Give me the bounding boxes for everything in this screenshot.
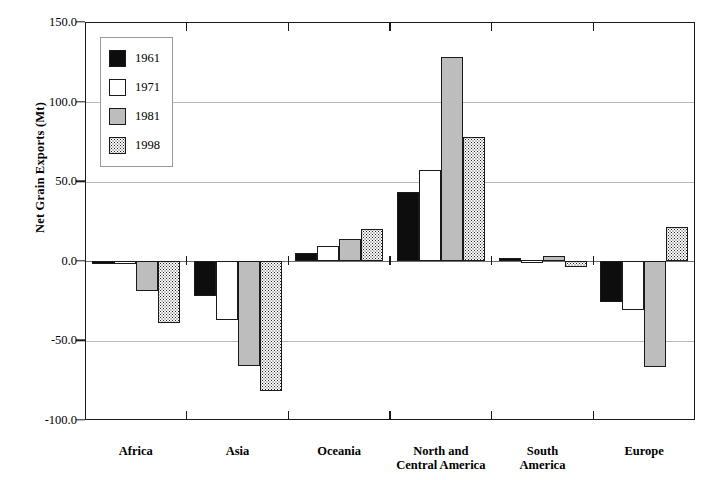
legend-label: 1998 (135, 138, 160, 153)
bar-1998-1 (158, 261, 180, 323)
x-axis-tick-mark (288, 22, 289, 31)
x-axis-tick-mark (593, 256, 594, 265)
y-axis-tick-mark (76, 260, 85, 261)
bar-1981-4 (441, 57, 463, 261)
x-axis-tick-mark (186, 22, 187, 31)
bar-1971-1 (114, 261, 136, 264)
x-axis-tick-mark (491, 411, 492, 420)
x-axis-tick-mark (389, 411, 390, 420)
bar-1981-2 (238, 261, 260, 366)
bar-1971-6 (622, 261, 644, 310)
y-axis-tick-label: 100.0 (31, 94, 77, 109)
x-axis-tick-mark (389, 22, 390, 31)
bar-1961-4 (397, 192, 419, 260)
chart-root: Net Grain Exports (Mt) 150.0100.050.00.0… (0, 0, 713, 480)
bar-1981-5 (543, 256, 565, 261)
x-axis-tick-mark (491, 256, 492, 265)
bar-1961-2 (194, 261, 216, 296)
gridline (86, 102, 694, 103)
y-axis-tick-label: 150.0 (31, 15, 77, 30)
legend-swatch-icon-1998 (109, 137, 126, 154)
bar-1971-2 (216, 261, 238, 320)
legend-entry-1961[interactable]: 1961 (109, 47, 160, 69)
legend-swatch-icon-1971 (109, 79, 126, 96)
x-axis-tick-mark (593, 22, 594, 31)
y-axis-tick-mark (76, 419, 85, 420)
bar-1981-1 (136, 261, 158, 291)
bar-1998-4 (463, 137, 485, 261)
legend-swatch-icon-1961 (109, 50, 126, 67)
x-axis-tick-mark (186, 256, 187, 265)
bar-1998-6 (666, 227, 688, 260)
legend-swatch-icon-1981 (109, 108, 126, 125)
bar-1971-3 (317, 246, 339, 260)
x-axis-tick-mark (288, 411, 289, 420)
legend-entry-1971[interactable]: 1971 (109, 76, 160, 98)
legend-entry-1998[interactable]: 1998 (109, 134, 160, 156)
gridline (86, 182, 694, 183)
gridline (86, 341, 694, 342)
y-axis-tick-mark (76, 101, 85, 102)
bar-1961-1 (92, 261, 114, 264)
bar-1961-6 (600, 261, 622, 302)
y-axis-tick-label: -100.0 (31, 413, 77, 428)
legend-label: 1981 (135, 109, 160, 124)
y-axis-tick-label: 50.0 (31, 174, 77, 189)
legend-label: 1961 (135, 51, 160, 66)
y-axis-tick-label: 0.0 (31, 253, 77, 268)
plot-area (85, 22, 695, 420)
y-axis-tick-mark (76, 340, 85, 341)
legend-label: 1971 (135, 80, 160, 95)
bar-1971-4 (419, 170, 441, 261)
x-axis-tick-mark (288, 256, 289, 265)
x-axis-tick-mark (593, 411, 594, 420)
x-axis-category-label: Europe (578, 444, 710, 458)
bar-1981-6 (644, 261, 666, 368)
bar-1998-2 (260, 261, 282, 392)
bar-1998-3 (361, 229, 383, 261)
bar-1961-3 (295, 253, 317, 261)
y-axis-tick-mark (76, 180, 85, 181)
bar-1998-5 (565, 261, 587, 267)
bar-1961-5 (499, 258, 521, 261)
legend-entry-1981[interactable]: 1981 (109, 105, 160, 127)
x-axis-tick-mark (491, 22, 492, 31)
x-axis-tick-mark (186, 411, 187, 420)
y-axis-tick-mark (76, 21, 85, 22)
bar-1981-3 (339, 239, 361, 260)
legend: 1961197119811998 (100, 37, 173, 167)
x-axis-tick-mark (389, 256, 390, 265)
bar-1971-5 (521, 260, 543, 263)
y-axis-tick-label: -50.0 (31, 333, 77, 348)
